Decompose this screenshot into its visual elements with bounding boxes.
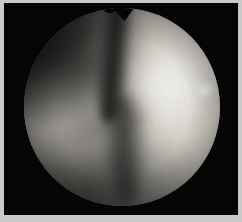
scope-circular-field bbox=[24, 8, 220, 206]
field-vignette-overlay bbox=[24, 8, 220, 206]
endoscopic-image-viewer bbox=[0, 0, 242, 222]
capture-matte bbox=[4, 3, 238, 215]
